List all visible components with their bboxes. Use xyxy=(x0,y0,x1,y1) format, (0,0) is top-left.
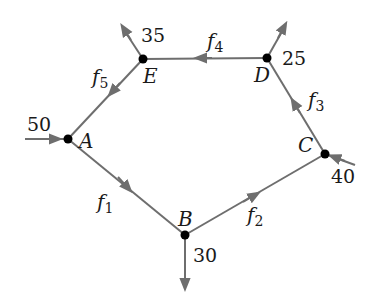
flow-value-a: 50 xyxy=(27,113,51,135)
node-c xyxy=(321,150,330,159)
flow-value-c: 40 xyxy=(331,165,355,187)
edge-label-f1: f1 xyxy=(95,190,113,216)
edge-e-a xyxy=(68,59,143,139)
node-label-a: A xyxy=(77,129,93,153)
node-label-c: C xyxy=(298,133,313,157)
edge-label-f4: f4 xyxy=(205,29,223,55)
edge-label-f2: f2 xyxy=(245,203,263,229)
node-d xyxy=(263,54,272,63)
flow-value-b: 30 xyxy=(193,244,217,266)
edge-a-b xyxy=(68,139,185,235)
external-flow-c-in xyxy=(325,154,355,165)
flow-network-diagram: A B C D E f1 f2 f3 f4 f5 50 30 40 25 35 xyxy=(0,0,371,301)
node-e xyxy=(139,55,148,64)
node-b xyxy=(181,231,190,240)
edge-d-e xyxy=(143,58,267,59)
node-a xyxy=(64,135,73,144)
node-label-b: B xyxy=(177,207,193,231)
flow-value-e: 35 xyxy=(141,24,165,46)
node-label-e: E xyxy=(142,64,158,88)
node-label-d: D xyxy=(253,63,270,87)
edge-label-f5: f5 xyxy=(90,65,108,91)
flow-value-d: 25 xyxy=(282,47,306,69)
edge-label-f3: f3 xyxy=(306,88,324,114)
